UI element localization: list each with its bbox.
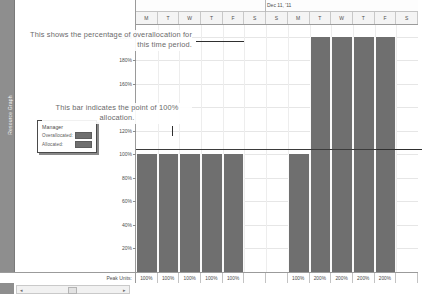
legend-box: Manager Overallocated: Allocated: <box>37 120 97 153</box>
resource-bar[interactable] <box>331 37 353 272</box>
legend-swatch-overallocated <box>75 132 92 139</box>
resource-bar[interactable] <box>158 154 180 272</box>
y-axis-tick-mark <box>133 178 136 179</box>
y-axis-tick-label: 40% <box>122 222 132 228</box>
timescale-major-tick <box>265 0 266 12</box>
timescale-header[interactable]: Dec 11, '11 MTWTFSSMTWTFS <box>136 0 418 25</box>
timescale-major-label: Dec 11, '11 <box>267 2 291 8</box>
y-axis-tick-mark <box>133 60 136 61</box>
peak-units-cell[interactable]: 200% <box>331 273 353 283</box>
timescale-day-cell[interactable]: W <box>331 12 353 24</box>
y-axis-tick-mark <box>133 225 136 226</box>
timescale-major-row: Dec 11, '11 <box>136 0 418 12</box>
peak-units-cell[interactable]: 200% <box>310 273 332 283</box>
timescale-day-cell[interactable]: S <box>266 12 288 24</box>
reference-line-100-percent <box>136 149 418 150</box>
peak-units-cell[interactable]: 100% <box>136 273 158 283</box>
peak-units-cell[interactable]: 200% <box>353 273 375 283</box>
resource-bar[interactable] <box>375 37 397 272</box>
y-axis-tick-label: 180% <box>119 57 132 63</box>
legend-label-allocated: Allocated: <box>42 142 63 147</box>
y-axis-tick-mark <box>133 248 136 249</box>
legend-row-allocated: Allocated: <box>42 141 92 148</box>
horizontal-scrollbar-thumb[interactable] <box>68 287 77 294</box>
y-axis-tick-label: 120% <box>119 128 132 134</box>
legend-label-overallocated: Overallocated: <box>42 133 73 138</box>
peak-units-cell[interactable]: 100% <box>158 273 180 283</box>
timescale-day-cell[interactable]: T <box>158 12 180 24</box>
resource-bar[interactable] <box>310 37 332 272</box>
peak-units-cell[interactable]: 100% <box>179 273 201 283</box>
timescale-day-cell[interactable]: M <box>288 12 310 24</box>
resource-bar[interactable] <box>179 154 201 272</box>
annotation-100-percent-leader <box>172 126 173 136</box>
scroll-left-arrow-icon[interactable]: ◂ <box>17 286 26 293</box>
resource-bar[interactable] <box>288 154 310 272</box>
y-axis-tick-mark <box>133 154 136 155</box>
peak-units-cell[interactable]: 100% <box>288 273 310 283</box>
y-axis-tick-mark <box>133 201 136 202</box>
y-axis-tick-label: 80% <box>122 175 132 181</box>
legend-title: Manager <box>42 124 92 130</box>
timescale-day-cell[interactable]: F <box>223 12 245 24</box>
view-name-vertical-label: Resource Graph <box>7 67 13 163</box>
resource-bar[interactable] <box>223 154 245 272</box>
chart-horizontal-scroll-track[interactable] <box>136 285 418 294</box>
resource-bar[interactable] <box>353 37 375 272</box>
annotation-100-percent-bar: This bar indicates the point of 100% all… <box>42 103 192 124</box>
peak-units-values: 100%100%100%100%100%100%200%200%200%200% <box>136 273 418 283</box>
scrollbar-corner <box>0 283 14 294</box>
plot-area <box>136 25 418 272</box>
legend-swatch-allocated <box>75 141 92 148</box>
y-axis-tick-label: 160% <box>119 81 132 87</box>
legend-row-overallocated: Overallocated: <box>42 132 92 139</box>
timescale-day-cell[interactable]: T <box>353 12 375 24</box>
reference-line-leader <box>377 149 422 150</box>
resource-bar[interactable] <box>136 154 158 272</box>
y-axis-tick-mark <box>133 84 136 85</box>
timescale-minor-row: MTWTFSSMTWTFS <box>136 12 418 24</box>
timescale-day-cell[interactable]: W <box>179 12 201 24</box>
peak-units-cell[interactable] <box>396 273 418 283</box>
scrollbar-area: ◂ ▸ <box>0 283 418 299</box>
y-axis-tick-label: 60% <box>122 198 132 204</box>
y-axis-tick-label: 20% <box>122 245 132 251</box>
peak-units-cell[interactable] <box>266 273 288 283</box>
peak-units-cell[interactable] <box>244 273 266 283</box>
y-axis-tick-label: 100% <box>119 151 132 157</box>
y-axis: 20%40%60%80%100%120%140%160%180%200% <box>103 25 136 272</box>
horizontal-scrollbar[interactable]: ◂ ▸ <box>16 285 130 294</box>
timescale-day-cell[interactable]: S <box>396 12 418 24</box>
peak-units-cell[interactable]: 200% <box>375 273 397 283</box>
timescale-day-cell[interactable]: T <box>310 12 332 24</box>
peak-units-label: Peak Units: <box>0 273 136 283</box>
timescale-day-cell[interactable]: S <box>244 12 266 24</box>
peak-units-cell[interactable]: 100% <box>201 273 223 283</box>
timescale-day-cell[interactable]: F <box>375 12 397 24</box>
timescale-day-cell[interactable]: T <box>201 12 223 24</box>
resource-bar[interactable] <box>201 154 223 272</box>
scroll-right-arrow-icon[interactable]: ▸ <box>120 286 129 293</box>
annotation-overallocation-leader <box>196 41 244 42</box>
peak-units-cell[interactable]: 100% <box>223 273 245 283</box>
y-axis-tick-mark <box>133 131 136 132</box>
vertical-label-strip: Resource Graph <box>0 0 15 283</box>
peak-units-row: Peak Units: 100%100%100%100%100%100%200%… <box>0 272 418 283</box>
annotation-overallocation: This shows the percentage of overallocat… <box>22 30 192 51</box>
timescale-day-cell[interactable]: M <box>136 12 158 24</box>
